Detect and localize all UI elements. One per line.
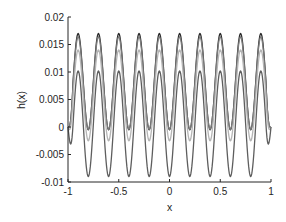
axes — [68, 17, 271, 182]
curve-4-line — [68, 71, 271, 177]
plot-lines — [68, 34, 271, 177]
y-tick-label: 0.005 — [39, 94, 64, 105]
x-tick-label: -1 — [64, 186, 73, 197]
y-axis-label: h(x) — [15, 91, 27, 109]
x-tick-label: 0.5 — [213, 186, 227, 197]
curve-1-line — [68, 34, 271, 130]
y-tick-label: 0.01 — [45, 67, 65, 78]
x-tick-label: 0 — [167, 186, 173, 197]
y-tick-label: -0.01 — [41, 177, 64, 188]
x-axis-label: x — [167, 201, 173, 213]
curve-3-line — [68, 50, 271, 141]
y-tick-label: 0 — [58, 122, 64, 133]
y-tick-label: -0.005 — [36, 149, 65, 160]
y-tick-label: 0.015 — [39, 39, 64, 50]
y-axis-ticks: -0.01-0.00500.0050.010.0150.02 — [36, 12, 71, 188]
line-chart: -1-0.500.51 -0.01-0.00500.0050.010.0150.… — [0, 0, 286, 222]
x-tick-label: 1 — [268, 186, 274, 197]
x-tick-label: -0.5 — [110, 186, 128, 197]
y-tick-label: 0.02 — [45, 12, 65, 23]
